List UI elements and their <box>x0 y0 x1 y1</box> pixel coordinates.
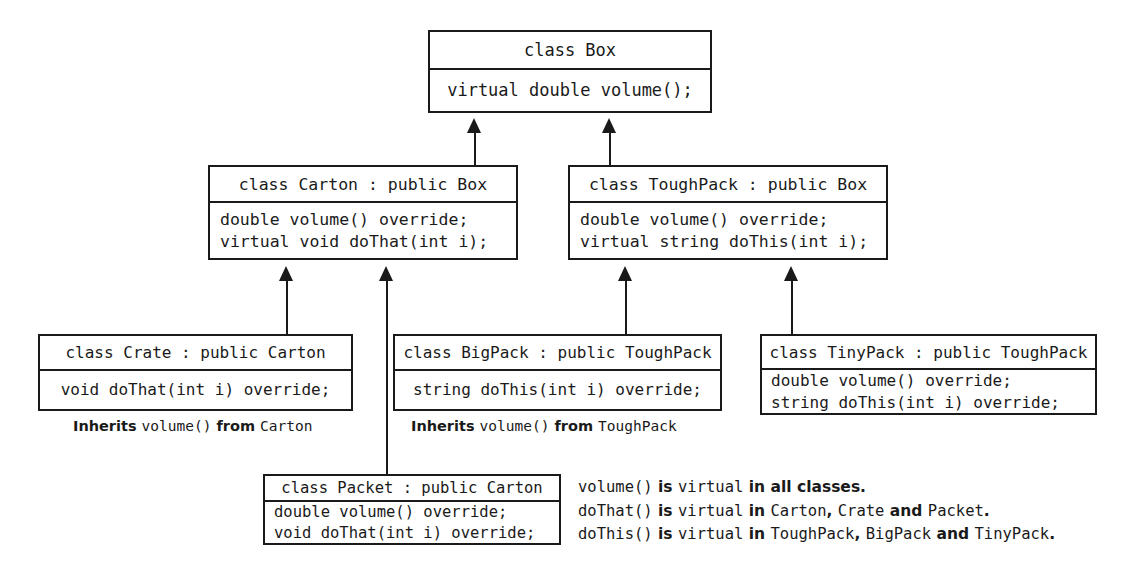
legend-function: volume() <box>578 478 653 496</box>
legend-scope-third: Packet <box>928 502 984 520</box>
class-toughpack-title: class ToughPack : public Box <box>570 167 886 201</box>
class-packet-title: class Packet : public Carton <box>265 476 559 500</box>
legend-scope-all: all classes <box>770 478 860 496</box>
class-toughpack-members: double volume() override; virtual string… <box>570 201 886 258</box>
legend-function: doThat() <box>578 502 653 520</box>
legend-period: . <box>1049 525 1055 543</box>
member-row: virtual void doThat(int i); <box>220 231 506 253</box>
member-row: double volume() override; <box>771 370 1086 391</box>
legend-virtual: virtual <box>678 478 743 496</box>
caption-middle: from <box>549 418 598 434</box>
legend-separator: , <box>854 525 865 543</box>
legend: volume() is virtual in all classes. doTh… <box>578 476 1055 547</box>
legend-in: in <box>743 502 770 520</box>
legend-scope-third: TinyPack <box>974 525 1049 543</box>
arrowhead-bigpack-to-toughpack <box>618 266 632 281</box>
class-tinypack-members: double volume() override; string doThis(… <box>762 368 1095 413</box>
class-box-title: class Box <box>430 32 710 68</box>
member-row: string doThis(int i) override; <box>405 379 710 400</box>
class-bigpack-members: string doThis(int i) override; <box>395 369 720 410</box>
caption-middle: from <box>211 418 260 434</box>
class-box-toughpack: class ToughPack : public Box double volu… <box>568 165 888 260</box>
legend-is: is <box>653 525 678 543</box>
caption-prefix: Inherits <box>411 418 480 434</box>
arrowhead-tinypack-to-toughpack <box>784 266 798 281</box>
legend-in: in <box>743 525 770 543</box>
caption-member: volume() <box>480 418 550 434</box>
legend-and: and <box>931 525 974 543</box>
arrowhead-crate-to-carton <box>279 266 293 281</box>
legend-scope-first: Carton <box>770 502 826 520</box>
caption-member: volume() <box>142 418 212 434</box>
class-crate-title: class Crate : public Carton <box>40 336 351 369</box>
member-row: string doThis(int i) override; <box>771 392 1086 413</box>
connector-bigpack-to-toughpack <box>625 280 628 335</box>
class-crate-members: void doThat(int i) override; <box>40 369 351 410</box>
class-carton-members: double volume() override; virtual void d… <box>210 201 516 258</box>
member-row: void doThat(int i) override; <box>274 523 550 543</box>
legend-line: doThis() is virtual in ToughPack, BigPac… <box>578 523 1055 547</box>
connector-packet-to-carton <box>386 280 389 475</box>
legend-virtual: virtual <box>678 525 743 543</box>
class-bigpack-title: class BigPack : public ToughPack <box>395 336 720 369</box>
legend-virtual: virtual <box>678 502 743 520</box>
class-box-carton: class Carton : public Box double volume(… <box>208 165 518 260</box>
class-box-bigpack: class BigPack : public ToughPack string … <box>393 334 722 411</box>
legend-period: . <box>984 502 990 520</box>
legend-in: in <box>743 478 770 496</box>
member-row: double volume() override; <box>274 502 550 522</box>
legend-scope-second: BigPack <box>866 525 931 543</box>
member-row: double volume() override; <box>220 209 506 231</box>
class-carton-title: class Carton : public Box <box>210 167 516 201</box>
legend-scope-first: ToughPack <box>770 525 854 543</box>
legend-line: volume() is virtual in all classes. <box>578 476 1055 500</box>
legend-is: is <box>653 478 678 496</box>
class-box-packet: class Packet : public Carton double volu… <box>263 474 561 545</box>
connector-carton-to-box <box>474 132 477 166</box>
caption-crate-inherits: Inherits volume() from Carton <box>73 418 312 434</box>
member-row: virtual double volume(); <box>440 79 700 101</box>
legend-and: and <box>884 502 927 520</box>
caption-source: Carton <box>260 418 312 434</box>
legend-period: . <box>860 478 866 496</box>
legend-separator: , <box>826 502 837 520</box>
caption-prefix: Inherits <box>73 418 142 434</box>
connector-crate-to-carton <box>286 280 289 335</box>
legend-scope-second: Crate <box>838 502 885 520</box>
class-box-members: virtual double volume(); <box>430 68 710 112</box>
arrowhead-carton-to-box <box>467 118 481 133</box>
class-diagram: class Box virtual double volume(); class… <box>0 0 1139 575</box>
class-box-tinypack: class TinyPack : public ToughPack double… <box>760 334 1097 415</box>
member-row: double volume() override; <box>580 209 876 231</box>
class-box-crate: class Crate : public Carton void doThat(… <box>38 334 353 411</box>
arrowhead-packet-to-carton <box>379 266 393 281</box>
class-tinypack-title: class TinyPack : public ToughPack <box>762 336 1095 368</box>
caption-bigpack-inherits: Inherits volume() from ToughPack <box>411 418 677 434</box>
caption-source: ToughPack <box>598 418 677 434</box>
member-row: virtual string doThis(int i); <box>580 231 876 253</box>
connector-toughpack-to-box <box>609 132 612 166</box>
arrowhead-toughpack-to-box <box>602 118 616 133</box>
legend-line: doThat() is virtual in Carton, Crate and… <box>578 500 1055 524</box>
member-row: void doThat(int i) override; <box>50 379 341 400</box>
legend-function: doThis() <box>578 525 653 543</box>
class-packet-members: double volume() override; void doThat(in… <box>265 500 559 543</box>
class-box-box: class Box virtual double volume(); <box>428 30 712 113</box>
legend-is: is <box>653 502 678 520</box>
connector-tinypack-to-toughpack <box>791 280 794 335</box>
